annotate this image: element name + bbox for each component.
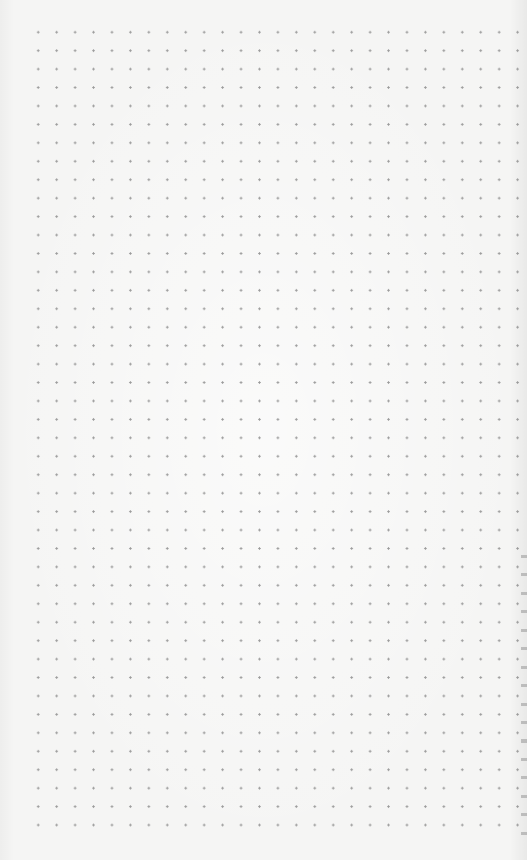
dotted-paper-canvas[interactable]: [0, 0, 527, 860]
dot-grid: [29, 23, 527, 835]
page-edge-binding: [521, 555, 527, 845]
